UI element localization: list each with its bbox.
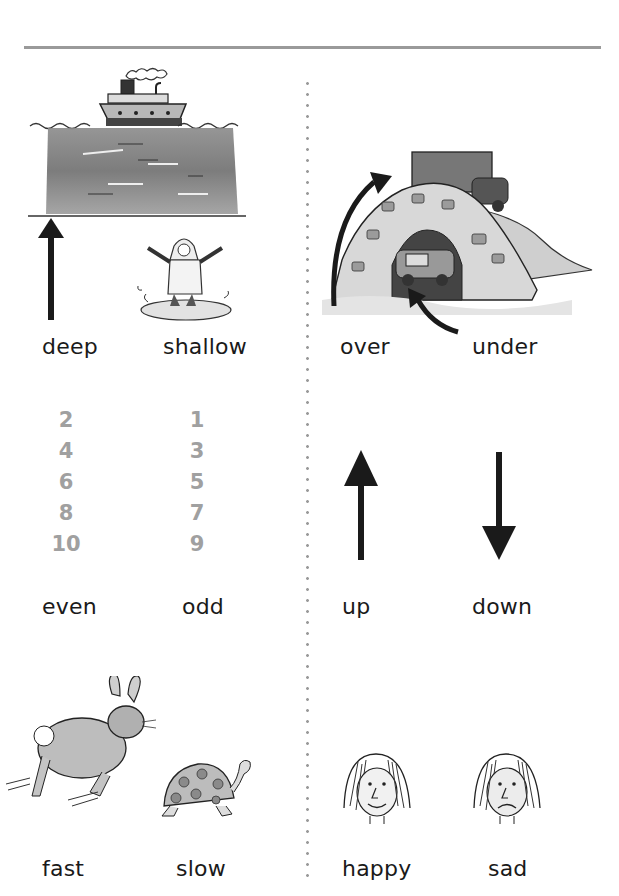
label-happy: happy (342, 856, 411, 881)
child-puddle-illustration (134, 232, 234, 324)
odd-number: 5 (177, 467, 217, 498)
label-odd: odd (182, 594, 224, 619)
label-slow: slow (176, 856, 226, 881)
deep-arrow-icon (36, 216, 66, 322)
even-number: 6 (46, 467, 86, 498)
odd-number: 7 (177, 498, 217, 529)
label-up: up (342, 594, 370, 619)
up-arrow-icon (343, 448, 379, 562)
rabbit-illustration (2, 676, 162, 816)
label-down: down (472, 594, 532, 619)
sad-face-illustration (466, 748, 546, 824)
even-number: 8 (46, 498, 86, 529)
odd-number: 3 (177, 436, 217, 467)
label-over: over (340, 334, 390, 359)
odd-number: 1 (177, 405, 217, 436)
even-number: 10 (46, 529, 86, 560)
ship-water-illustration (28, 64, 248, 224)
bridge-illustration (322, 150, 594, 336)
label-fast: fast (42, 856, 84, 881)
odd-number: 9 (177, 529, 217, 560)
even-number: 4 (46, 436, 86, 467)
top-rule (24, 46, 601, 49)
label-under: under (472, 334, 537, 359)
happy-face-illustration (336, 748, 416, 824)
column-separator (306, 78, 309, 878)
label-even: even (42, 594, 97, 619)
tortoise-illustration (158, 752, 254, 824)
label-shallow: shallow (163, 334, 247, 359)
label-deep: deep (42, 334, 98, 359)
even-number: 2 (46, 405, 86, 436)
down-arrow-icon (481, 452, 517, 562)
label-sad: sad (488, 856, 528, 881)
